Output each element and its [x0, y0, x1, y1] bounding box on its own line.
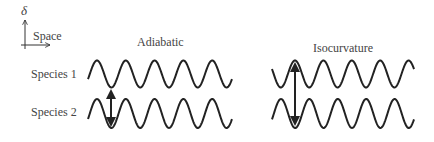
space-axis-label: Space	[33, 30, 62, 42]
panel-title-isocurvature: Isocurvature	[313, 42, 373, 54]
isocurvature-species-1-wave	[272, 61, 414, 88]
waves	[88, 61, 414, 129]
delta-axis-label: δ	[21, 4, 27, 17]
species-2-label: Species 2	[31, 106, 77, 118]
species-1-label: Species 1	[31, 68, 77, 80]
panel-title-adiabatic: Adiabatic	[137, 36, 184, 48]
isocurvature-species-2-wave	[272, 99, 414, 128]
adiabatic-species-2-wave	[88, 99, 232, 128]
adiabatic-species-1-wave	[88, 61, 232, 88]
